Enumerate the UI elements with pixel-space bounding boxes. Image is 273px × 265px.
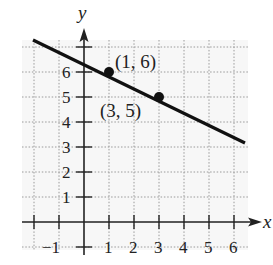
y-tick-label: 4: [62, 113, 71, 132]
x-tick-label: 3: [154, 238, 163, 257]
data-point: [104, 67, 114, 77]
x-tick-label: 2: [129, 238, 138, 257]
point-label: (1, 6): [115, 51, 156, 73]
y-tick-label: 5: [62, 88, 71, 107]
point-label: (3, 5): [100, 100, 141, 122]
y-tick-label: 6: [62, 63, 71, 82]
data-point: [154, 92, 164, 102]
x-tick-label: −1: [42, 238, 60, 257]
line-graph: −1 1 2 3 4 5 6 1 2 3 4 5 6 y x (1, 6) (3…: [0, 0, 273, 265]
x-tick-label: 6: [229, 238, 238, 257]
y-tick-label: 2: [62, 163, 71, 182]
x-tick-label: 1: [104, 238, 113, 257]
y-axis-label: y: [76, 2, 87, 23]
y-tick-label: 1: [62, 188, 71, 207]
x-axis-label: x: [262, 211, 272, 232]
y-tick-label: 3: [62, 138, 71, 157]
x-tick-label: 5: [204, 238, 213, 257]
x-tick-label: 4: [179, 238, 188, 257]
